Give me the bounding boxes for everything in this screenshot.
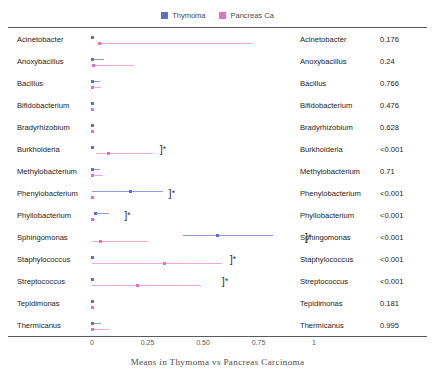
row-label-left: Tepidimonas: [17, 299, 60, 308]
significance-bracket: ]*: [230, 254, 236, 265]
row-label-left: Acinetobacter: [17, 35, 63, 44]
mean-point-pancreas-ca: [91, 130, 94, 133]
row-pvalue: 0.995: [380, 321, 428, 330]
mean-point-thymoma: [91, 58, 94, 61]
legend-label: Pancreas Ca: [230, 11, 273, 20]
x-axis-tick-label: 1: [312, 339, 316, 346]
significance-bracket: ]*: [305, 232, 311, 243]
row-pvalue: <0.001: [380, 233, 428, 242]
row-pvalue: 0.628: [380, 123, 428, 132]
row-label-right: Bacillus: [300, 79, 326, 88]
row-pvalue: <0.001: [380, 255, 428, 264]
mean-point-thymoma: [91, 278, 94, 281]
row-label-left: Phyllobacterium: [17, 211, 71, 220]
significance-bracket: ]*: [160, 144, 166, 155]
row-pvalue: <0.001: [380, 189, 428, 198]
ci-whisker-pancreas-ca: [100, 43, 252, 44]
mean-point-thymoma: [91, 168, 94, 171]
significance-bracket: ]*: [124, 210, 130, 221]
ci-whisker-pancreas-ca: [92, 285, 201, 286]
chart-row: BradyrhizobiumBradyrhizobium0.628: [0, 117, 435, 139]
row-label-right: Bradyrhizobium: [300, 123, 353, 132]
mean-point-pancreas-ca: [107, 152, 110, 155]
chart-row: SphingomonasSphingomonas<0.001]*: [0, 227, 435, 249]
legend-entry: Thymoma: [161, 11, 205, 20]
chart-row: PhyllobacteriumPhyllobacterium<0.001]*: [0, 205, 435, 227]
row-pvalue: 0.476: [380, 101, 428, 110]
row-pvalue: <0.001: [380, 211, 428, 220]
mean-point-thymoma: [91, 80, 94, 83]
significance-bracket: ]*: [222, 276, 228, 287]
ci-whisker-thymoma: [92, 59, 104, 60]
mean-point-thymoma: [94, 212, 97, 215]
row-label-right: Staphylococcus: [300, 255, 353, 264]
chart-row: BifidobacteriumBifidobacterium0.476: [0, 95, 435, 117]
x-axis-tick-label: 0.25: [141, 339, 155, 346]
row-label-left: Sphingomonas: [17, 233, 68, 242]
row-pvalue: 0.24: [380, 57, 428, 66]
row-label-right: Burkholderia: [300, 145, 343, 154]
row-pvalue: 0.71: [380, 167, 428, 176]
significance-bracket: ]*: [169, 188, 175, 199]
row-label-right: Tepidimonas: [300, 299, 343, 308]
mean-point-thymoma: [91, 146, 94, 149]
mean-point-pancreas-ca: [91, 328, 94, 331]
row-label-left: Streptococcus: [17, 277, 65, 286]
legend-swatch-icon: [161, 12, 168, 19]
mean-point-pancreas-ca: [92, 64, 95, 67]
row-label-right: Thermicanus: [300, 321, 344, 330]
mean-point-pancreas-ca: [136, 284, 139, 287]
mean-point-thymoma: [91, 300, 94, 303]
row-label-right: Bifidobacterium: [300, 101, 352, 110]
row-label-right: Anoxybacillus: [300, 57, 346, 66]
row-pvalue: 0.176: [380, 35, 428, 44]
row-label-left: Bifidobacterium: [17, 101, 69, 110]
chart-row: PhenylobacteriumPhenylobacterium<0.001]*: [0, 183, 435, 205]
mean-point-pancreas-ca: [91, 174, 94, 177]
row-label-left: Phenylobacterium: [17, 189, 78, 198]
mean-point-thymoma: [91, 256, 94, 259]
ci-whisker-pancreas-ca: [92, 175, 103, 176]
ci-whisker-pancreas-ca: [93, 65, 134, 66]
row-label-right: Methylobacterium: [300, 167, 360, 176]
ci-whisker-thymoma: [92, 191, 163, 192]
x-axis: 00.250.500.751: [0, 336, 435, 356]
mean-point-pancreas-ca: [91, 306, 94, 309]
chart-row: StaphylococcusStaphylococcus<0.001]*: [0, 249, 435, 271]
x-axis-tick-label: 0: [90, 339, 94, 346]
mean-point-pancreas-ca: [98, 42, 101, 45]
chart-row: AcinetobacterAcinetobacter0.176: [0, 29, 435, 51]
x-axis-tick-label: 0.50: [196, 339, 210, 346]
chart-row: MethylobacteriumMethylobacterium0.71: [0, 161, 435, 183]
mean-point-pancreas-ca: [99, 240, 102, 243]
ci-whisker-pancreas-ca: [96, 153, 153, 154]
ci-whisker-pancreas-ca: [92, 329, 109, 330]
row-label-left: Thermicanus: [17, 321, 61, 330]
mean-point-thymoma: [216, 234, 219, 237]
mean-point-pancreas-ca: [91, 196, 94, 199]
row-label-left: Burkholderia: [17, 145, 60, 154]
mean-point-thymoma: [91, 322, 94, 325]
mean-point-thymoma: [91, 102, 94, 105]
row-label-left: Bradyrhizobium: [17, 123, 70, 132]
mean-point-thymoma: [91, 36, 94, 39]
mean-point-pancreas-ca: [163, 262, 166, 265]
row-pvalue: <0.001: [380, 145, 428, 154]
x-axis-tick-label: 0.75: [252, 339, 266, 346]
row-label-left: Methylobacterium: [17, 167, 77, 176]
mean-point-pancreas-ca: [91, 108, 94, 111]
mean-point-thymoma: [129, 190, 132, 193]
mean-point-pancreas-ca: [91, 86, 94, 89]
row-pvalue: <0.001: [380, 277, 428, 286]
ci-whisker-pancreas-ca: [92, 263, 222, 264]
row-pvalue: 0.766: [380, 79, 428, 88]
ci-whisker-thymoma: [183, 235, 273, 236]
chart-row: AnoxybacillusAnoxybacillus0.24: [0, 51, 435, 73]
row-label-left: Staphylococcus: [17, 255, 70, 264]
row-label-left: Anoxybacillus: [17, 57, 63, 66]
chart-legend: ThymomaPancreas Ca: [0, 11, 435, 20]
row-label-right: Acinetobacter: [300, 35, 346, 44]
chart-row: TepidimonasTepidimonas0.181: [0, 293, 435, 315]
mean-point-thymoma: [91, 124, 94, 127]
row-label-right: Phyllobacterium: [300, 211, 354, 220]
